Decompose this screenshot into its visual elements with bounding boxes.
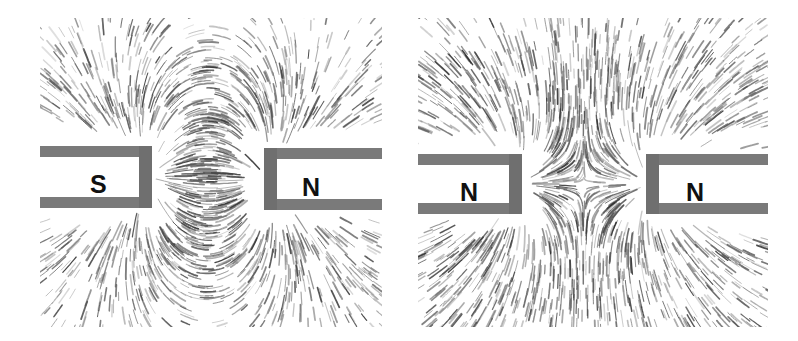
magnet-pole-face [264,148,277,210]
unlike-poles-attraction: SN [40,18,382,327]
pole-label-n: N [460,180,478,205]
magnet-pole-face [139,146,152,208]
magnet-top-bar [418,154,522,165]
magnet-bottom-bar [646,203,768,214]
left-magnet-north: N [418,154,522,214]
magnetic-field-figure: SNNN [0,0,798,341]
left-magnet-south: S [40,146,152,208]
pole-label-n: N [302,175,320,200]
like-poles-repulsion: NN [418,18,768,327]
magnet-bottom-bar [264,199,382,210]
magnet-top-bar [264,148,382,159]
magnet-top-bar [646,154,768,165]
magnet-top-bar [40,146,152,157]
pole-label-n: N [686,180,704,205]
pole-label-s: S [90,172,107,197]
magnet-pole-face [646,154,659,214]
right-magnet-north-2: N [646,154,768,214]
magnet-bottom-bar [40,197,152,208]
magnet-pole-face [509,154,522,214]
right-magnet-north: N [264,148,382,210]
